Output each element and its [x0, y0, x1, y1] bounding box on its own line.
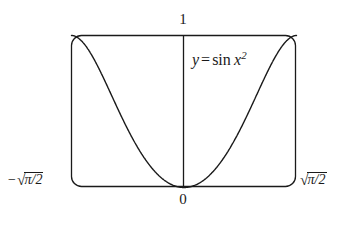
radical-expression: √π/2: [17, 172, 44, 188]
x-axis-min-label: −√π/2: [8, 172, 43, 188]
function-plot-figure: 1 0 −√π/2 √π/2 y=sin x2: [0, 0, 349, 235]
equation-equals-sign: =: [199, 51, 212, 68]
radicand-value: π/2: [307, 172, 327, 187]
minus-sign: −: [8, 172, 17, 187]
function-equation-label: y=sin x2: [192, 52, 247, 68]
plot-canvas: [0, 0, 349, 235]
origin-label: 0: [179, 192, 187, 207]
radical-expression: √π/2: [300, 172, 327, 188]
equation-exponent: 2: [241, 49, 246, 61]
radicand-value: π/2: [24, 172, 44, 187]
y-axis-max-label: 1: [179, 12, 187, 27]
x-axis-max-label: √π/2: [300, 172, 327, 188]
equation-sin-name: sin: [212, 51, 231, 68]
